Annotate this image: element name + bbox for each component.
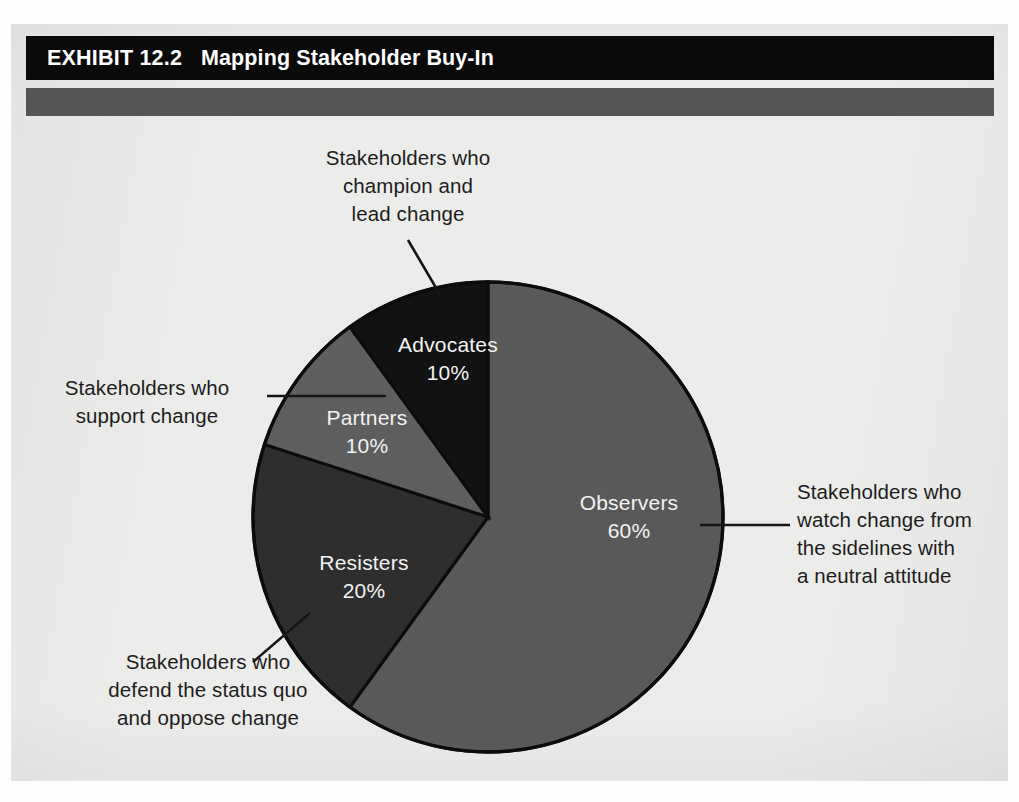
- exhibit-number-label: EXHIBIT 12.2: [47, 46, 182, 71]
- annotation-resisters: Stakeholders who defend the status quo a…: [62, 648, 354, 732]
- slice-label-partners: Partners 10%: [292, 404, 442, 460]
- slice-label-observers: Observers 60%: [540, 489, 718, 545]
- annotation-observers: Stakeholders who watch change from the s…: [797, 478, 1012, 590]
- exhibit-title-text: Mapping Stakeholder Buy-In: [201, 46, 494, 71]
- slice-label-advocates: Advocates 10%: [368, 331, 528, 387]
- annotation-partners: Stakeholders who support change: [22, 374, 272, 430]
- slice-label-resisters: Resisters 20%: [280, 549, 448, 605]
- exhibit-title-inner: EXHIBIT 12.2 Mapping Stakeholder Buy-In: [26, 46, 494, 71]
- annotation-advocates: Stakeholders who champion and lead chang…: [302, 144, 514, 228]
- exhibit-page: EXHIBIT 12.2 Mapping Stakeholder Buy-In …: [0, 0, 1019, 802]
- pie-chart: Advocates 10% Partners 10% Resisters 20%…: [0, 0, 1019, 802]
- exhibit-title-bar: EXHIBIT 12.2 Mapping Stakeholder Buy-In: [26, 36, 994, 80]
- exhibit-subheader-bar: [26, 88, 994, 116]
